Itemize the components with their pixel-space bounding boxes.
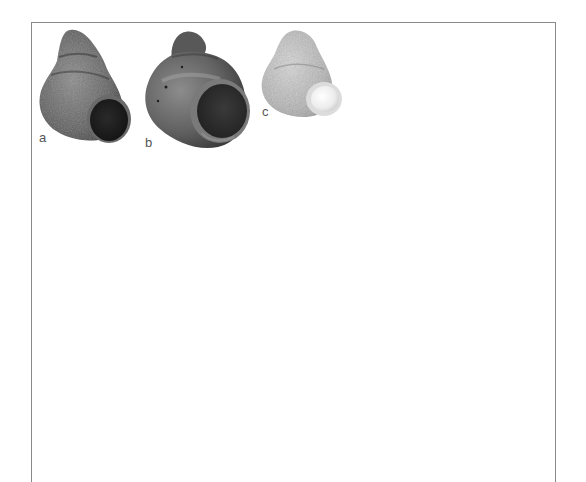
figure-panel-b: b (142, 29, 254, 151)
figure-panel-c: c (258, 29, 344, 125)
shell-image-b (142, 29, 254, 151)
panel-label-b: b (145, 136, 152, 149)
shell-image-a (37, 27, 137, 147)
figure-frame: a (31, 22, 556, 482)
panel-label-a: a (39, 131, 46, 144)
shell-image-c (258, 29, 344, 125)
figure-panel-a: a (37, 27, 137, 147)
panel-label-c: c (262, 105, 269, 118)
